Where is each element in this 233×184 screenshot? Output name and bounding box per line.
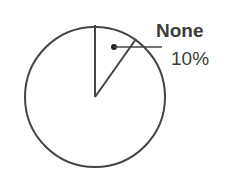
slice-label-percent: 10% <box>171 48 209 70</box>
slice-label-name: None <box>156 20 204 42</box>
